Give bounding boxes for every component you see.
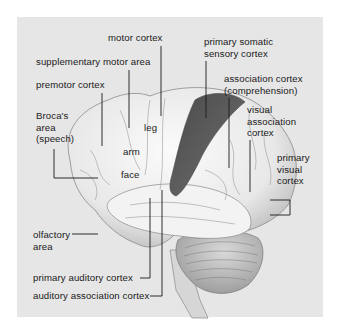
label-association-cortex: association cortex (comprehension) xyxy=(224,73,303,96)
label-primary-auditory-cortex: primary auditory cortex xyxy=(33,272,133,284)
label-brocas-area: Broca's area (speech) xyxy=(36,110,74,145)
label-primary-somatic-sensory-cortex: primary somatic sensory cortex xyxy=(204,36,273,59)
label-face: face xyxy=(121,169,140,181)
label-arm: arm xyxy=(123,146,140,158)
label-premotor-cortex: premotor cortex xyxy=(36,79,105,91)
label-leg: leg xyxy=(144,122,157,134)
label-supplementary-motor-area: supplementary motor area xyxy=(36,56,150,68)
label-olfactory-area: olfactory area xyxy=(33,229,70,252)
label-motor-cortex: motor cortex xyxy=(108,32,163,44)
label-auditory-association-cortex: auditory association cortex xyxy=(33,290,149,302)
label-primary-visual-cortex: primary visual cortex xyxy=(277,152,310,187)
label-visual-association-cortex: visual association cortex xyxy=(247,104,296,139)
